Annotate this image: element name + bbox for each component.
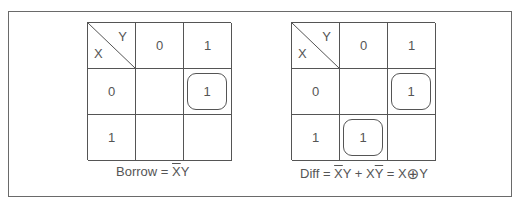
col-variable-label: Y (118, 29, 127, 44)
caption-plus: + (355, 166, 363, 181)
term-complement: X (172, 164, 181, 179)
cell-value: 1 (203, 84, 210, 99)
xor-operand: Y (419, 166, 428, 181)
col-header: 1 (388, 23, 436, 69)
diff-caption: Diff = XY + XY = X⊕Y (300, 164, 428, 182)
kmap-corner-cell: Y X (292, 23, 340, 69)
kmap-corner-cell: Y X (88, 23, 136, 69)
kmap-cell (184, 115, 232, 161)
row-header: 0 (88, 69, 136, 115)
cell-value: 1 (407, 84, 414, 99)
caption-equals: = (323, 166, 331, 181)
term-plain: X (366, 166, 375, 181)
col-header: 1 (184, 23, 232, 69)
diagram-frame (8, 11, 512, 197)
borrow-caption: Borrow = XY (116, 164, 189, 179)
kmap-cell-grouped: 1 (340, 115, 388, 161)
group-loop: 1 (343, 119, 383, 156)
caption-label: Borrow (116, 164, 157, 179)
kmap-borrow: Y X 0 1 0 1 1 (87, 22, 231, 160)
caption-label: Diff (300, 166, 319, 181)
kmap-cell (136, 115, 184, 161)
row-variable-label: X (94, 46, 103, 61)
term-complement: Y (375, 166, 383, 181)
col-variable-label: Y (322, 29, 331, 44)
kmap-cell (340, 69, 388, 115)
col-header: 0 (340, 23, 388, 69)
row-header: 0 (292, 69, 340, 115)
kmap-cell (388, 115, 436, 161)
kmap-cell-grouped: 1 (184, 69, 232, 115)
row-header: 1 (88, 115, 136, 161)
xor-operand: X (398, 166, 407, 181)
term-complement: X (334, 166, 343, 181)
term-plain: Y (181, 164, 190, 179)
term-plain: Y (343, 166, 351, 181)
kmap-grid: Y X 0 1 0 1 1 1 (291, 22, 435, 160)
group-loop: 1 (391, 73, 431, 110)
col-header: 0 (136, 23, 184, 69)
row-header: 1 (292, 115, 340, 161)
kmap-cell-grouped: 1 (388, 69, 436, 115)
caption-equals: = (387, 166, 395, 181)
cell-value: 1 (359, 130, 366, 145)
xor-icon: ⊕ (407, 165, 420, 182)
row-variable-label: X (298, 46, 307, 61)
group-loop: 1 (187, 73, 227, 110)
kmap-diff: Y X 0 1 0 1 1 1 (291, 22, 435, 160)
caption-equals: = (161, 164, 169, 179)
kmap-grid: Y X 0 1 0 1 1 (87, 22, 231, 160)
kmap-cell (136, 69, 184, 115)
